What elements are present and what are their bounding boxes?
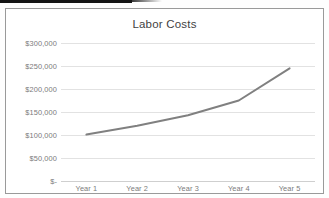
line-series-labor-costs[interactable] bbox=[61, 43, 315, 181]
chart-container[interactable]: Labor Costs $-$50,000$100,000$150,000$20… bbox=[5, 8, 324, 194]
y-axis-tick-labels: $-$50,000$100,000$150,000$200,000$250,00… bbox=[6, 43, 57, 181]
x-axis-category-labels: Year 1Year 2Year 3Year 4Year 5 bbox=[61, 184, 315, 198]
scanned-page: Labor Costs $-$50,000$100,000$150,000$20… bbox=[0, 0, 329, 198]
y-axis-tick-label: $100,000 bbox=[25, 131, 57, 140]
y-axis-tick-label: $250,000 bbox=[25, 62, 57, 71]
x-axis-category-label-1: Year 1 bbox=[61, 184, 112, 198]
y-axis-tick-label: $300,000 bbox=[25, 39, 57, 48]
y-axis-tick-label: $150,000 bbox=[25, 108, 57, 117]
y-axis-tick-label: $- bbox=[50, 177, 57, 186]
y-axis-tick-label: $50,000 bbox=[30, 154, 57, 163]
chart-title: Labor Costs bbox=[6, 18, 323, 30]
series-polyline bbox=[86, 68, 289, 134]
x-axis-category-label-3: Year 3 bbox=[163, 184, 214, 198]
scan-artifact-fade bbox=[132, 0, 162, 2]
x-axis-category-label-5: Year 5 bbox=[264, 184, 315, 198]
x-axis-category-label-2: Year 2 bbox=[112, 184, 163, 198]
scan-artifact-strip bbox=[0, 0, 132, 3]
y-axis-tick-label: $200,000 bbox=[25, 85, 57, 94]
x-axis-category-label-4: Year 4 bbox=[213, 184, 264, 198]
x-axis-line bbox=[61, 181, 315, 182]
plot-area bbox=[61, 43, 315, 181]
